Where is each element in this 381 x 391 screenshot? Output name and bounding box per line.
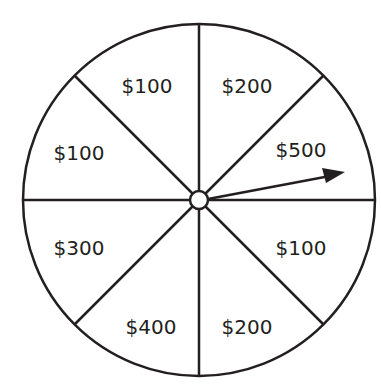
section-label: $100 <box>122 74 173 98</box>
section-label: $300 <box>54 236 105 260</box>
spinner-diagram: $100 $200 $500 $100 $200 $400 $300 $100 <box>0 0 381 391</box>
section-label: $500 <box>276 138 327 162</box>
section-label: $100 <box>54 141 105 165</box>
section-label: $400 <box>126 315 177 339</box>
section-label: $200 <box>222 74 273 98</box>
section-label: $200 <box>222 315 273 339</box>
section-label: $100 <box>276 236 327 260</box>
pointer-shaft <box>208 176 330 199</box>
spinner-hub <box>190 191 208 209</box>
pointer-arrowhead-icon <box>322 168 345 183</box>
